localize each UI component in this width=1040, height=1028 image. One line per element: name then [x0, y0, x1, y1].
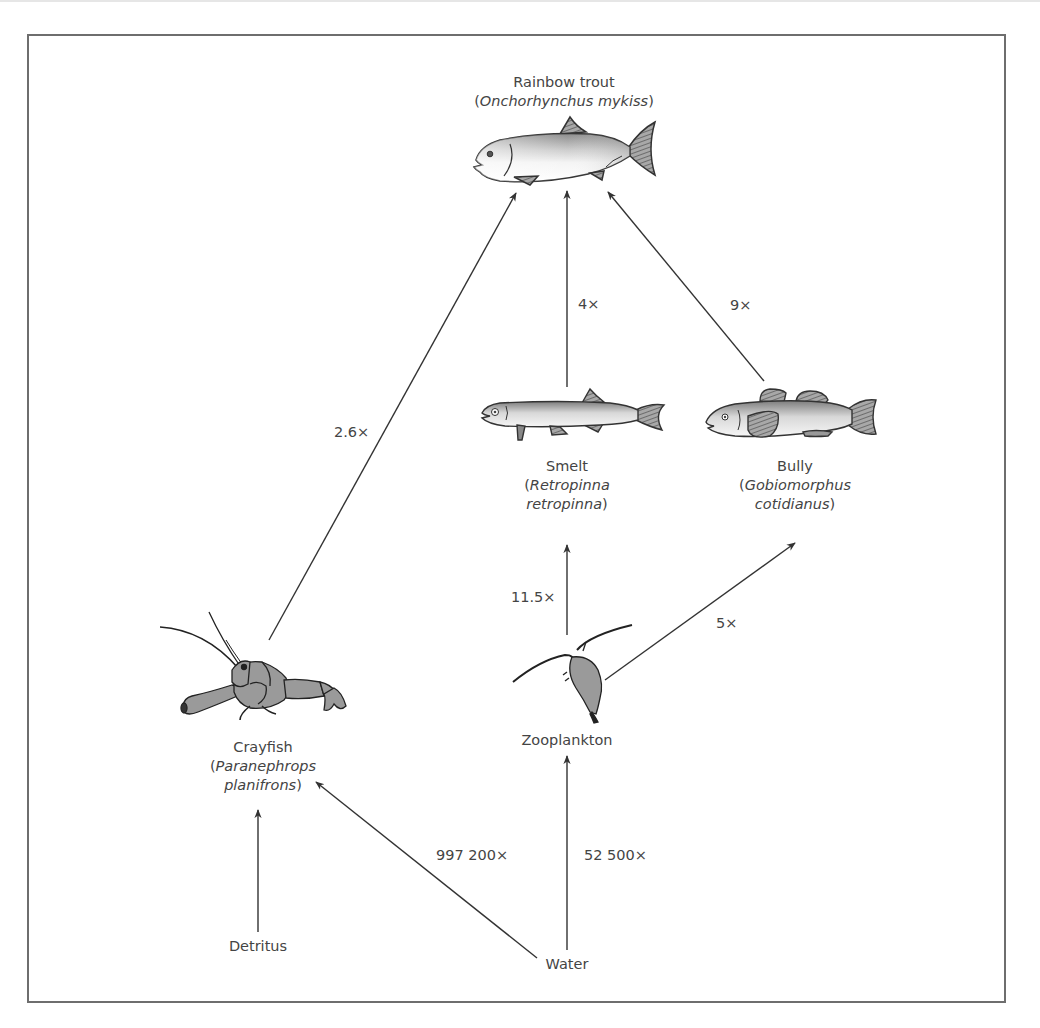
factor-smelt-trout: 4×	[578, 295, 599, 313]
zooplankton-label: Zooplankton	[507, 731, 627, 750]
detritus-label: Detritus	[208, 937, 308, 956]
trout-label: Rainbow trout (Onchorhynchus mykiss)	[464, 73, 664, 111]
bully-scientific-name-1: (Gobiomorphus	[725, 476, 865, 495]
factor-crayfish-trout: 2.6×	[334, 423, 369, 441]
factor-zooplankton-bully: 5×	[716, 614, 737, 632]
arrow-bully-to-trout	[608, 192, 764, 381]
smelt-scientific-name-2: retropinna)	[507, 495, 627, 514]
trout-common-name: Rainbow trout	[464, 73, 664, 92]
factor-zooplankton-smelt: 11.5×	[511, 588, 555, 606]
bully-scientific-name-2: cotidianus)	[725, 495, 865, 514]
rainbow-trout-icon	[474, 117, 655, 185]
crayfish-common-name: Crayfish	[193, 738, 333, 757]
factor-water-zooplankton: 52 500×	[584, 846, 647, 864]
smelt-icon	[482, 389, 664, 440]
factor-bully-trout: 9×	[730, 296, 751, 314]
smelt-scientific-name-1: (Retropinna	[507, 476, 627, 495]
arrow-zooplankton-to-bully	[605, 543, 795, 680]
crayfish-icon	[160, 612, 346, 720]
trout-scientific-name: (Onchorhynchus mykiss)	[464, 92, 664, 111]
bully-icon	[706, 389, 876, 437]
arrow-crayfish-to-trout	[269, 193, 516, 640]
smelt-label: Smelt (Retropinna retropinna)	[507, 457, 627, 514]
food-web-diagram	[0, 0, 1040, 1028]
crayfish-scientific-name-2: planifrons)	[193, 776, 333, 795]
crayfish-label: Crayfish (Paranephrops planifrons)	[193, 738, 333, 795]
factor-water-crayfish: 997 200×	[436, 846, 508, 864]
crayfish-scientific-name-1: (Paranephrops	[193, 757, 333, 776]
smelt-common-name: Smelt	[507, 457, 627, 476]
water-label: Water	[527, 955, 607, 974]
arrow-water-to-crayfish	[316, 782, 537, 958]
bully-common-name: Bully	[725, 457, 865, 476]
bully-label: Bully (Gobiomorphus cotidianus)	[725, 457, 865, 514]
